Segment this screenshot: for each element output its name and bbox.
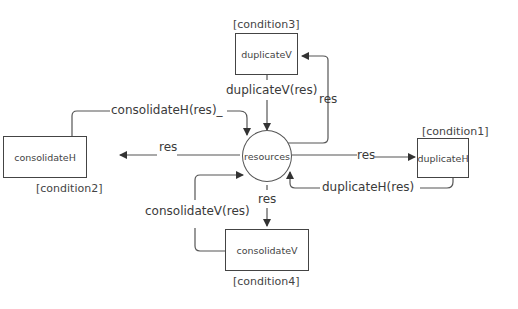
consolidateV-node-label: consolidateV bbox=[236, 245, 297, 256]
resources-node[interactable]: resources bbox=[242, 130, 292, 182]
duplicateH-node[interactable]: duplicateH bbox=[417, 138, 469, 178]
edge-label-res-to-duplicateV: res bbox=[319, 93, 337, 105]
condition2-label: [condition2] bbox=[36, 183, 102, 194]
edge-label-duplicateV-res: duplicateV(res) bbox=[226, 84, 317, 96]
edge-label-duplicateH-res: duplicateH(res) bbox=[322, 181, 414, 193]
consolidateH-node-label: consolidateH bbox=[14, 152, 76, 163]
consolidateH-node[interactable]: consolidateH bbox=[3, 136, 87, 178]
duplicateV-node-label: duplicateV bbox=[241, 49, 291, 60]
edge-label-res-to-duplicateH: res bbox=[357, 149, 375, 161]
edge-label-consolidateH-res: consolidateH(res)_ bbox=[111, 104, 223, 116]
condition1-label: [condition1] bbox=[422, 126, 488, 137]
edge-label-res-to-consolidateH: res bbox=[159, 141, 177, 153]
condition3-label: [condition3] bbox=[233, 19, 299, 30]
edge-label-res-to-consolidateV: res bbox=[258, 193, 276, 205]
consolidateV-node[interactable]: consolidateV bbox=[225, 229, 309, 271]
duplicateH-node-label: duplicateH bbox=[417, 153, 468, 164]
condition4-label: [condition4] bbox=[233, 276, 299, 287]
resources-label: resources bbox=[244, 151, 290, 162]
edge-label-consolidateV-res: consolidateV(res) bbox=[145, 205, 250, 217]
duplicateV-node[interactable]: duplicateV bbox=[235, 33, 298, 75]
